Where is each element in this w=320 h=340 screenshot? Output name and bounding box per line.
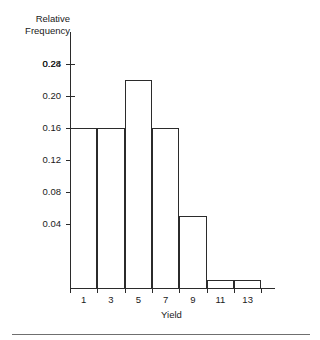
x-tick	[152, 288, 153, 293]
y-tick-label-016: 0.16	[43, 122, 62, 133]
y-axis-title: Relative Frequency	[8, 13, 70, 36]
x-axis-title: Yield	[70, 309, 273, 321]
y-tick-label-028: 0.28	[43, 58, 62, 69]
histogram-figure: Relative Frequency 0.04 0.08 0.12 0.16 0…	[0, 0, 320, 340]
x-axis-line	[70, 288, 275, 289]
histogram-bar	[125, 80, 152, 288]
x-tick-label: 7	[151, 294, 181, 306]
histogram-bar	[152, 128, 179, 288]
x-tick	[234, 288, 235, 293]
x-tick	[70, 288, 71, 293]
histogram-bar	[97, 128, 124, 288]
histogram-bar	[234, 280, 261, 288]
x-tick-label: 3	[96, 294, 126, 306]
y-axis-title-line-1: Relative	[8, 13, 70, 25]
histogram-bar	[70, 128, 97, 288]
y-tick-label-004: 0.04	[43, 218, 62, 229]
x-tick	[207, 288, 208, 293]
y-tick-label-008: 0.08	[43, 186, 62, 197]
x-tick	[179, 288, 180, 293]
footer-rule	[12, 334, 310, 335]
x-tick	[261, 288, 262, 293]
y-tick-028: 0.28	[66, 64, 75, 65]
plot-area: 0.04 0.08 0.12 0.16 0.20 0.24 0.28	[70, 32, 275, 288]
x-tick-label: 1	[69, 294, 99, 306]
x-tick-label: 11	[205, 294, 235, 306]
histogram-bar	[207, 280, 234, 288]
x-tick-label: 9	[178, 294, 208, 306]
x-tick	[97, 288, 98, 293]
y-tick-label-012: 0.12	[43, 154, 62, 165]
y-tick-020: 0.20	[66, 96, 75, 97]
x-tick	[125, 288, 126, 293]
y-axis-title-line-2: Frequency	[8, 25, 70, 37]
x-tick-label: 13	[233, 294, 263, 306]
y-tick-label-020: 0.20	[43, 90, 62, 101]
histogram-bar	[179, 216, 206, 288]
x-tick-label: 5	[123, 294, 153, 306]
